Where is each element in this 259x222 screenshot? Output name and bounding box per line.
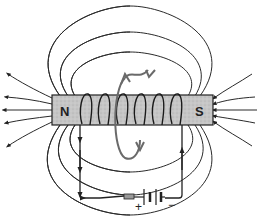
south-pole-label: S [195,104,204,119]
electromagnet-diagram: N S + − [0,0,259,222]
battery-negative-label: − [168,198,175,212]
circuit-wires [80,125,182,198]
field-lines-bottom [47,125,212,215]
battery-positive-label: + [135,200,142,214]
battery-icon: + − [124,189,175,214]
north-pole-label: N [60,104,69,119]
field-lines-north [4,74,52,146]
magnet-bar: N S [52,95,213,125]
field-lines-top [48,6,212,96]
field-lines-south [214,74,257,146]
